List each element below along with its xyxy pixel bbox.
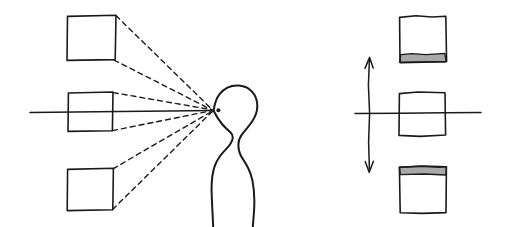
left-panel bbox=[30, 15, 257, 227]
ray-upper-bottom bbox=[114, 60, 212, 110]
right-panel bbox=[355, 16, 481, 214]
vertical-axis-shaft bbox=[368, 60, 369, 169]
image-square-middle bbox=[399, 92, 446, 136]
image-square-upper bbox=[400, 16, 447, 63]
ray-lower-bottom bbox=[113, 111, 213, 209]
jaw-and-neck-outline bbox=[212, 111, 233, 227]
square-lower-outline bbox=[67, 168, 113, 210]
observer-figure bbox=[212, 86, 258, 227]
eye-dot bbox=[216, 108, 220, 112]
ray-middle-top bbox=[113, 93, 212, 110]
ray-middle-bottom bbox=[113, 111, 213, 131]
image-square-middle-outline bbox=[399, 92, 446, 136]
sight-rays bbox=[113, 16, 213, 210]
sight-line bbox=[30, 110, 211, 112]
image-square-lower bbox=[399, 166, 446, 213]
figure-canvas: Perspective projection of three squares … bbox=[0, 0, 508, 227]
diagram-svg: Perspective projection of three squares … bbox=[0, 0, 508, 227]
vertical-axis-arrow bbox=[365, 57, 373, 172]
object-square-lower bbox=[67, 168, 113, 210]
square-upper-outline bbox=[67, 15, 116, 60]
horizon-line bbox=[355, 113, 481, 114]
object-square-upper bbox=[67, 15, 116, 60]
ray-lower-top bbox=[113, 111, 212, 169]
